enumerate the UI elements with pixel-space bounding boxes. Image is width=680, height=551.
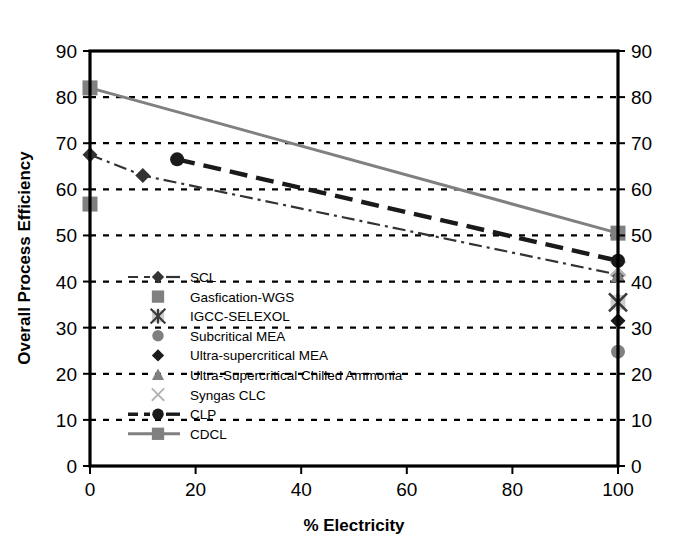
chart-background [0,0,680,551]
x-axis-tick-label: 60 [396,479,417,500]
y-axis-tick-label: 0 [66,456,77,477]
legend-label: Ultra-supercritical MEA [190,348,328,363]
y-axis-tick-label-right: 60 [631,179,652,200]
legend-label: Ultra-Supercritical Chilled Ammonia [190,368,403,383]
y-axis-tick-label: 70 [56,133,77,154]
y-axis-tick-label: 50 [56,225,77,246]
y-axis-tick-label-right: 50 [631,225,652,246]
legend-label: Syngas CLC [190,388,266,403]
data-point-clp [170,152,184,166]
y-axis-tick-label: 30 [56,318,77,339]
y-axis-tick-label-right: 80 [631,87,652,108]
legend-marker-circle [152,330,163,341]
y-axis-tick-label: 90 [56,41,77,62]
legend-item-ultra-supercritical-chilled-ammonia: Ultra-Supercritical Chilled Ammonia [152,368,403,383]
x-axis-tick-label: 40 [291,479,312,500]
y-axis-tick-label-right: 10 [631,410,652,431]
y-axis-tick-label-right: 30 [631,318,652,339]
legend-label: CDCL [190,427,227,442]
y-axis-tick-label-right: 40 [631,272,652,293]
y-axis-tick-label: 20 [56,364,77,385]
y-axis-tick-label-right: 20 [631,364,652,385]
x-axis-tick-label: 0 [85,479,96,500]
y-axis-tick-label-right: 90 [631,41,652,62]
legend-marker-square [152,290,164,302]
legend-label: CLP [190,407,216,422]
legend-marker-circle [152,408,163,419]
y-axis-title: Overall Process Efficiency [15,151,34,365]
y-axis-tick-label-right: 0 [631,456,642,477]
legend-label: SCL [190,270,217,285]
y-axis-tick-label: 60 [56,179,77,200]
x-axis-tick-label: 80 [502,479,523,500]
legend-label: Gasfication-WGS [190,290,294,305]
x-axis-tick-label: 20 [185,479,206,500]
y-axis-tick-label-right: 70 [631,133,652,154]
x-axis-title: % Electricity [303,516,405,535]
legend-marker-square [152,428,164,440]
x-axis-tick-label: 100 [602,479,634,500]
legend-label: Subcritical MEA [190,329,285,344]
legend-label: IGCC-SELEXOL [190,309,290,324]
process-efficiency-scatter-chart: 0010102020303040405050606070708080909002… [0,0,680,551]
legend-marker-star-x [151,309,166,324]
y-axis-tick-label: 80 [56,87,77,108]
y-axis-tick-label: 40 [56,272,77,293]
chart-container: 0010102020303040405050606070708080909002… [0,0,680,551]
y-axis-tick-label: 10 [56,410,77,431]
